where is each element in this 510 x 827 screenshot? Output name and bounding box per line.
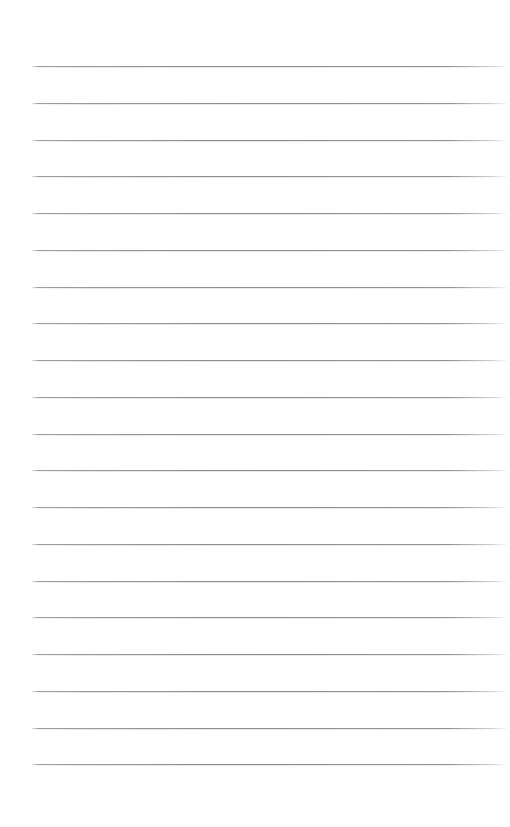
write-slot[interactable]: [32, 544, 506, 581]
write-slot[interactable]: [32, 66, 506, 103]
write-slot[interactable]: [32, 250, 506, 287]
write-slot[interactable]: [32, 397, 506, 434]
write-slot[interactable]: [32, 287, 506, 323]
write-slot[interactable]: [32, 140, 506, 176]
write-slot[interactable]: [32, 691, 506, 728]
write-slot[interactable]: [32, 470, 506, 507]
write-slot[interactable]: [32, 581, 506, 617]
lined-paper-page: [0, 0, 510, 827]
write-slot[interactable]: [32, 654, 506, 691]
write-slot[interactable]: [32, 434, 506, 470]
write-slot[interactable]: [32, 360, 506, 397]
write-slot[interactable]: [32, 0, 506, 66]
write-slot[interactable]: [32, 103, 506, 140]
rule-line: [32, 764, 506, 765]
write-slot[interactable]: [32, 176, 506, 213]
write-slot[interactable]: [32, 507, 506, 544]
write-slot[interactable]: [32, 213, 506, 250]
write-slot[interactable]: [32, 323, 506, 360]
write-slot[interactable]: [32, 728, 506, 764]
ruled-writing-area[interactable]: [0, 0, 510, 827]
write-slot[interactable]: [32, 617, 506, 654]
